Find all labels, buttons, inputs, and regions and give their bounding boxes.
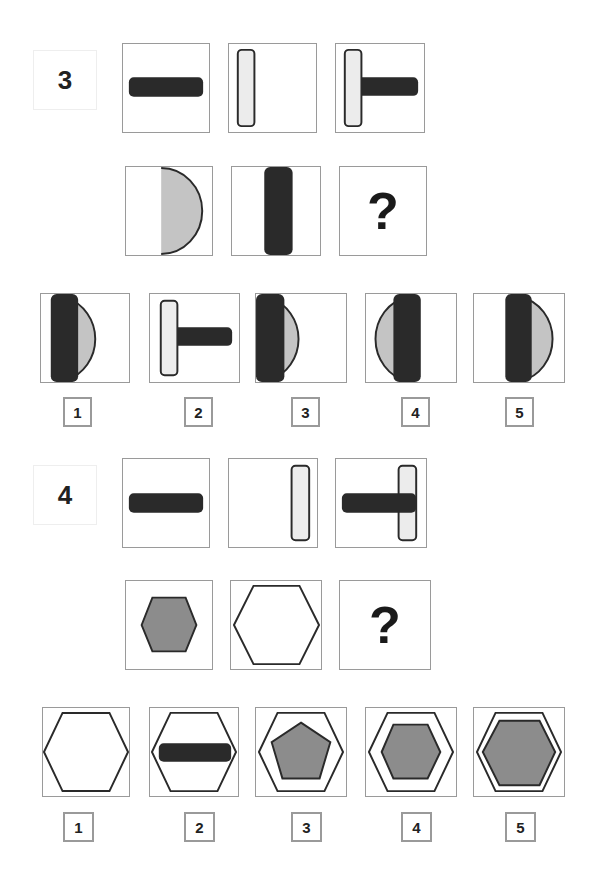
vertical-light-bar-icon (229, 459, 317, 547)
p3-option-2-label[interactable]: 2 (184, 397, 213, 427)
p3-row2-tile-2 (231, 166, 321, 256)
question-mark-icon: ? (340, 581, 430, 669)
option-figure-icon (474, 708, 564, 796)
p4-option-3-label[interactable]: 3 (291, 812, 322, 842)
option-figure-icon (150, 294, 239, 382)
horizontal-bar-icon (123, 459, 209, 547)
p4-row2-tile-1 (125, 580, 213, 670)
p3-option-4-label[interactable]: 4 (401, 397, 430, 427)
option-figure-icon (474, 294, 564, 382)
p4-option-5-label[interactable]: 5 (505, 812, 536, 842)
p4-row2-tile-2 (230, 580, 322, 670)
p4-option-1-label[interactable]: 1 (63, 812, 94, 842)
p4-row1-tile-1 (122, 458, 210, 548)
p3-row1-tile-2 (228, 43, 317, 133)
option-figure-icon (43, 708, 129, 796)
p3-row2-tile-unknown: ? (339, 166, 427, 256)
p3-option-2[interactable] (149, 293, 240, 383)
option-figure-icon (41, 294, 129, 382)
p4-option-1[interactable] (42, 707, 130, 797)
p4-row2-tile-unknown: ? (339, 580, 431, 670)
p4-row1-tile-3 (335, 458, 427, 548)
option-figure-icon (366, 294, 456, 382)
option-figure-icon (256, 294, 346, 382)
horizontal-bar-icon (123, 44, 209, 132)
p4-option-3[interactable] (255, 707, 347, 797)
p3-option-5[interactable] (473, 293, 565, 383)
vertical-light-bar-icon (229, 44, 316, 132)
question-mark-icon: ? (340, 167, 426, 255)
t-shape-icon (336, 44, 424, 132)
option-figure-icon (150, 708, 238, 796)
p3-row1-tile-1 (122, 43, 210, 133)
option-figure-icon (366, 708, 456, 796)
bar-over-light-bar-icon (336, 459, 426, 547)
p3-row2-tile-1 (125, 166, 213, 256)
p3-option-3[interactable] (255, 293, 347, 383)
p4-option-5[interactable] (473, 707, 565, 797)
p3-option-1[interactable] (40, 293, 130, 383)
p4-row1-tile-2 (228, 458, 318, 548)
p4-option-4-label[interactable]: 4 (401, 812, 432, 842)
small-hexagon-icon (126, 581, 212, 669)
p4-option-2[interactable] (149, 707, 239, 797)
p3-option-3-label[interactable]: 3 (291, 397, 320, 427)
p3-option-5-label[interactable]: 5 (505, 397, 534, 427)
problem-3-number: 3 (33, 50, 97, 110)
p3-option-1-label[interactable]: 1 (63, 397, 92, 427)
large-hexagon-icon (231, 581, 321, 669)
vertical-dark-bar-icon (232, 167, 320, 255)
p4-option-4[interactable] (365, 707, 457, 797)
option-figure-icon (256, 708, 346, 796)
p3-option-4[interactable] (365, 293, 457, 383)
p3-row1-tile-3 (335, 43, 425, 133)
p4-option-2-label[interactable]: 2 (184, 812, 215, 842)
problem-4-number: 4 (33, 465, 97, 525)
half-disc-icon (126, 167, 212, 255)
